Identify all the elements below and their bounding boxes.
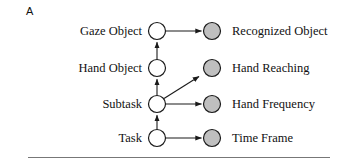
label-time-frame: Time Frame	[232, 131, 293, 145]
node-subtask[interactable]	[149, 96, 166, 113]
node-task[interactable]	[149, 130, 166, 147]
label-task: Task	[119, 131, 142, 145]
label-hand-object: Hand Object	[78, 61, 142, 75]
node-gaze-object[interactable]	[149, 23, 166, 40]
label-hand-reaching: Hand Reaching	[232, 61, 309, 75]
label-recognized-object: Recognized Object	[232, 24, 327, 38]
label-gaze-object: Gaze Object	[80, 24, 142, 38]
edge-subtask-to-hand-reaching	[164, 77, 199, 99]
node-time-frame[interactable]	[204, 130, 221, 147]
figure-panel: A Gaze Object Hand Object Subtask	[0, 0, 346, 162]
node-hand-reaching[interactable]	[204, 60, 221, 77]
node-hand-object[interactable]	[149, 60, 166, 77]
node-recognized-object[interactable]	[204, 23, 221, 40]
node-hand-frequency[interactable]	[204, 96, 221, 113]
label-hand-frequency: Hand Frequency	[232, 97, 315, 111]
label-subtask: Subtask	[102, 97, 142, 111]
